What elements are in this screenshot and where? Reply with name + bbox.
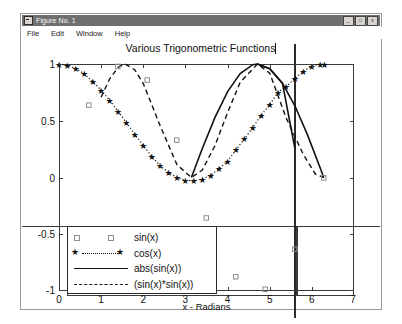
legend-label-cos: cos(x) [134, 248, 161, 259]
xtick-4 [228, 287, 229, 291]
xtick-top-3 [185, 64, 186, 68]
ytick-0 [59, 178, 63, 179]
legend-label-sin-squared: (sin(x)*sin(x)) [134, 279, 193, 290]
figure-window: Figure No. 1 _ □ x File Edit Window Help… [20, 13, 382, 310]
menu-bar: File Edit Window Help [22, 27, 385, 39]
menu-item-file[interactable]: File [27, 29, 39, 38]
figure-window-app: Figure No. 1 _ □ x File Edit Window Help… [0, 0, 402, 324]
ytick--1 [59, 290, 63, 291]
ytick-label-0.5: 0.5 [41, 115, 59, 126]
ytick-right-0.5 [350, 121, 354, 122]
legend-item-sin-squared[interactable]: (sin(x)*sin(x)) [68, 277, 216, 293]
ytick-right-0 [350, 178, 354, 179]
ytick-label--0.5: -0.5 [38, 229, 59, 240]
minimize-button[interactable]: _ [343, 16, 354, 26]
ytick-label--1: -1 [46, 285, 59, 296]
legend-item-cos[interactable]: ★ ★ cos(x) [68, 246, 216, 262]
window-title: Figure No. 1 [36, 17, 76, 25]
title-bar-buttons: _ □ x [343, 16, 378, 26]
close-button[interactable]: x [367, 16, 378, 26]
xtick-6 [312, 287, 313, 291]
ytick--0.5 [59, 234, 63, 235]
figure-canvas[interactable]: Various Trigonometric Functions [22, 40, 380, 309]
xtick-5 [270, 287, 271, 291]
legend-item-abs-sin[interactable]: abs(sin(x)) [68, 261, 216, 277]
xtick-top-1 [101, 64, 102, 68]
menu-item-edit[interactable]: Edit [51, 29, 64, 38]
text-cursor-icon [275, 43, 276, 54]
ytick-label-1: 1 [49, 59, 59, 70]
legend-key-dashed-line [68, 277, 134, 292]
legend-key-solid-line [68, 261, 134, 276]
chart-legend[interactable]: sin(x) ★ ★ cos(x) abs(sin(x)) [67, 226, 217, 294]
ytick-right--0.5 [350, 234, 354, 235]
legend-item-sin[interactable]: sin(x) [68, 230, 216, 246]
legend-key-square-markers [68, 230, 134, 245]
ytick-1 [59, 64, 63, 65]
xtick-top-5 [270, 64, 271, 68]
ytick-label-0: 0 [49, 172, 59, 183]
title-bar-left: Figure No. 1 [22, 16, 343, 25]
chart-title: Various Trigonometric Functions [126, 42, 276, 54]
menu-item-window[interactable]: Window [76, 29, 103, 38]
legend-label-abs-sin: abs(sin(x)) [134, 263, 181, 274]
menu-item-help[interactable]: Help [115, 29, 130, 38]
window-menu-icon[interactable] [24, 16, 33, 25]
xtick-top-4 [228, 64, 229, 68]
xtick-top-2 [143, 64, 144, 68]
legend-label-sin: sin(x) [134, 232, 158, 243]
window-title-bar[interactable]: Figure No. 1 _ □ x [22, 15, 380, 26]
x-axis-label: x - Radians [59, 301, 354, 312]
ytick-0.5 [59, 121, 63, 122]
xtick-top-6 [312, 64, 313, 68]
xtick-7 [353, 287, 354, 291]
chart-title-wrap[interactable]: Various Trigonometric Functions [22, 42, 380, 54]
legend-key-star-dotted: ★ ★ [68, 246, 134, 261]
maximize-button[interactable]: □ [355, 16, 366, 26]
